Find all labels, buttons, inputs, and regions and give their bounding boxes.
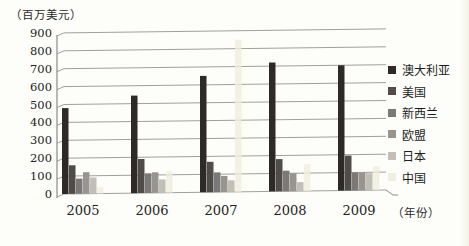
bar-2008-series-3 <box>290 173 297 191</box>
y-tick-label: 200 <box>18 152 52 164</box>
bar-2005-series-3 <box>83 172 90 194</box>
gridline <box>64 118 386 122</box>
bar-2005-series-0 <box>62 108 69 194</box>
y-tick-label: 500 <box>18 99 52 111</box>
bar-2007-series-3 <box>221 176 228 192</box>
x-category-label: 2006 <box>130 203 174 218</box>
gridline-hook <box>57 105 64 108</box>
y-tick-label: 800 <box>18 45 52 57</box>
bar-2006-series-5 <box>166 171 173 193</box>
legend-label: 中国 <box>402 169 426 186</box>
bar-2009-series-1 <box>345 156 352 191</box>
bar-2008-series-5 <box>304 164 311 191</box>
bar-2005-series-5 <box>97 187 104 193</box>
bar-2005-series-1 <box>69 165 76 194</box>
bar-2006-series-1 <box>138 159 145 193</box>
legend-item-2: 新西兰 <box>388 106 450 119</box>
bar-chart-figure: （百万美元） 0100200300400500600700800900 2005… <box>0 0 469 246</box>
bar-2007-series-1 <box>207 162 214 192</box>
bar-2007-series-4 <box>228 180 235 192</box>
bar-2006-series-3 <box>152 172 159 193</box>
bar-2005-series-4 <box>90 178 97 194</box>
legend-color-swatch-icon <box>388 130 396 138</box>
legend-item-1: 美国 <box>388 85 450 98</box>
bar-2007-series-2 <box>214 172 221 192</box>
x-category-label: 2009 <box>337 203 381 218</box>
legend-color-swatch-icon <box>388 173 396 181</box>
y-tick-label: 400 <box>18 116 52 128</box>
gridline-hook <box>57 51 64 54</box>
bar-2006-series-0 <box>131 96 138 194</box>
gridline-hook <box>57 69 64 72</box>
legend-item-0: 澳大利亚 <box>388 63 450 76</box>
gridline-hook <box>57 194 64 197</box>
gridline <box>64 154 386 158</box>
legend-color-swatch-icon <box>388 66 396 74</box>
gridline-hook <box>57 87 64 90</box>
y-tick-label: 0 <box>18 188 52 200</box>
gridline <box>64 47 386 51</box>
bar-2008-series-2 <box>283 171 290 192</box>
gridline-hook <box>57 33 64 36</box>
bar-2008-series-0 <box>269 63 276 192</box>
bar-2008-series-4 <box>297 182 304 191</box>
x-axis-unit-label: （年份） <box>392 204 440 220</box>
bar-2007-series-5 <box>235 40 242 192</box>
legend-color-swatch-icon <box>388 109 396 117</box>
legend-color-swatch-icon <box>388 87 396 95</box>
legend-item-5: 中国 <box>388 171 450 184</box>
y-tick-label: 600 <box>18 81 52 93</box>
bar-2009-series-0 <box>338 65 345 190</box>
legend-color-swatch-icon <box>388 152 396 160</box>
bar-2006-series-2 <box>145 173 152 193</box>
bar-2005-series-2 <box>76 179 83 194</box>
legend-item-4: 日本 <box>388 149 450 162</box>
gridline <box>64 136 386 140</box>
x-category-label: 2005 <box>61 203 105 218</box>
bar-2009-series-5 <box>373 166 380 190</box>
chart-legend: 澳大利亚美国新西兰欧盟日本中国 <box>388 63 450 184</box>
bar-2008-series-1 <box>276 159 283 191</box>
y-tick-label: 300 <box>18 134 52 146</box>
bar-2009-series-2 <box>352 173 359 191</box>
legend-label: 澳大利亚 <box>402 61 450 78</box>
gridline <box>64 101 386 105</box>
x-category-label: 2008 <box>268 203 312 218</box>
legend-label: 美国 <box>402 83 426 100</box>
x-category-label: 2007 <box>199 203 243 218</box>
bar-2009-series-3 <box>359 172 366 190</box>
legend-item-3: 欧盟 <box>388 128 450 141</box>
x-axis-end-tick <box>386 190 393 195</box>
legend-label: 日本 <box>402 147 426 164</box>
gridline <box>64 29 386 33</box>
gridline <box>64 83 386 87</box>
gridline <box>64 172 386 176</box>
y-tick-label: 900 <box>18 27 52 39</box>
legend-label: 新西兰 <box>402 104 438 121</box>
legend-label: 欧盟 <box>402 126 426 143</box>
bar-2006-series-4 <box>159 179 166 192</box>
gridline <box>64 65 386 69</box>
bar-2007-series-0 <box>200 76 207 192</box>
y-tick-label: 700 <box>18 63 52 75</box>
bar-2009-series-4 <box>366 173 373 190</box>
y-tick-label: 100 <box>18 170 52 182</box>
